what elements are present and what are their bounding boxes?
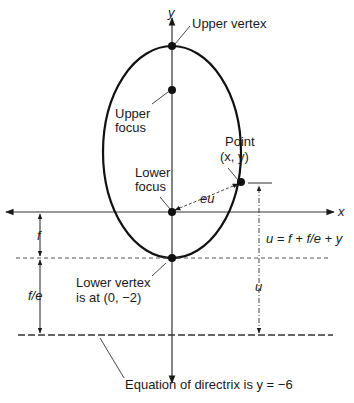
x-axis-label: x: [337, 204, 345, 219]
u-equation-label: u = f + f/e + y: [266, 231, 344, 246]
lower-focus-label-1: Lower: [135, 165, 171, 180]
lower-focus-point: [168, 208, 176, 216]
upper-focus-label-2: focus: [115, 120, 147, 135]
lower-focus-label-2: focus: [135, 179, 167, 194]
point-label-2: (x, y): [220, 149, 249, 164]
f-over-e-label: f/e: [28, 288, 42, 303]
upper-vertex-point: [168, 42, 176, 50]
lower-focus-leader: [160, 197, 170, 209]
upper-focus-leader: [152, 92, 168, 104]
lower-vertex-label-1: Lower vertex: [76, 275, 151, 290]
lower-vertex-point: [168, 254, 176, 262]
directrix-leader: [100, 338, 124, 378]
upper-vertex-label: Upper vertex: [192, 16, 267, 31]
ellipse-diagram: y x Upper vertex Upper focus Lower focus…: [0, 0, 354, 403]
upper-focus-point: [168, 86, 176, 94]
lower-vertex-label-2: is at (0, −2): [76, 290, 141, 305]
eu-label: eu: [200, 191, 214, 206]
lower-vertex-leader: [152, 263, 166, 276]
point-label-1: Point: [225, 134, 255, 149]
curve-point: [237, 178, 245, 186]
point-leader: [228, 168, 238, 180]
directrix-label: Equation of directrix is y = −6: [125, 377, 293, 392]
y-axis-label: y: [167, 5, 176, 20]
upper-focus-label-1: Upper: [115, 106, 151, 121]
f-label: f: [37, 228, 42, 243]
upper-vertex-leader: [175, 26, 190, 44]
u-label: u: [255, 279, 262, 294]
